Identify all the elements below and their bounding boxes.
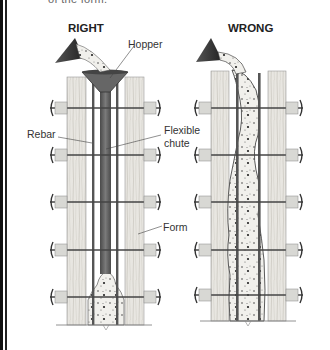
form-board-right (125, 77, 144, 325)
wrong-rebar-left (236, 73, 239, 321)
flexible-chute-label-line2: chute (164, 137, 190, 149)
flexible-chute-label-line1: Flexible (164, 124, 200, 136)
right-heading: RIGHT (68, 22, 104, 34)
form-label: Form (163, 221, 188, 233)
wrong-panel-drawing (194, 38, 303, 326)
concrete-stream (76, 44, 110, 72)
wrong-rebar-right (258, 73, 261, 321)
right-panel-drawing (50, 38, 162, 330)
wrong-heading: WRONG (228, 22, 273, 34)
rebar-label: Rebar (27, 128, 56, 140)
form-board-left (67, 77, 86, 325)
flexible-chute (100, 88, 111, 274)
hopper (82, 72, 128, 92)
hopper-label: Hopper (128, 38, 162, 50)
concrete-placement-diagram (0, 0, 330, 350)
wrong-pour-spout (196, 38, 222, 62)
